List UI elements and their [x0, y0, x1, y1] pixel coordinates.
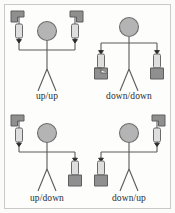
panel-label-down-up: down/up	[87, 193, 171, 203]
leg-right	[129, 69, 138, 91]
leg-left	[120, 69, 129, 91]
weight-right	[154, 128, 161, 142]
block-right	[69, 175, 82, 186]
panel-up-up: up/up	[5, 7, 89, 107]
leg-left	[120, 169, 129, 191]
weight-right	[72, 24, 79, 38]
weight-left	[16, 128, 23, 142]
leg-left	[38, 169, 47, 191]
arrow-right-down-icon	[155, 142, 160, 147]
panel-label-up-up: up/up	[5, 91, 89, 101]
panel-label-up-down: up/down	[5, 193, 89, 203]
panel-down-up: down/up	[87, 107, 171, 207]
block-right	[151, 68, 164, 79]
weight-left	[16, 24, 23, 38]
head	[120, 124, 139, 143]
panel-label-down-down: down/down	[87, 91, 171, 101]
figure-frame: up/up	[0, 0, 175, 213]
leg-right	[47, 69, 56, 91]
arrow-left-down-icon	[99, 49, 104, 54]
block-right	[70, 11, 83, 22]
head	[38, 22, 57, 41]
block-right	[152, 115, 165, 126]
arrow-right-down-icon	[73, 38, 78, 43]
panel-down-down: down/down	[87, 7, 171, 107]
leg-right	[47, 169, 56, 191]
panel-up-down: up/down	[5, 107, 89, 207]
leg-right	[129, 169, 138, 191]
stick-figure-down-up	[87, 107, 171, 207]
arrow-left-down-icon	[17, 142, 22, 147]
head	[120, 18, 139, 37]
weight-left	[98, 54, 105, 68]
weight-right	[154, 54, 161, 68]
figure-inner-border: up/up	[4, 4, 171, 209]
head	[38, 124, 57, 143]
stick-figure-up-down	[5, 107, 89, 207]
block-left	[11, 11, 24, 22]
arrow-right-down-icon	[155, 49, 160, 54]
arrow-left-down-icon	[17, 38, 22, 43]
leg-left	[38, 69, 47, 91]
block-left	[11, 115, 24, 126]
weight-right	[72, 161, 79, 175]
block-left	[95, 175, 108, 186]
weight-left	[98, 161, 105, 175]
block-left	[95, 68, 108, 79]
